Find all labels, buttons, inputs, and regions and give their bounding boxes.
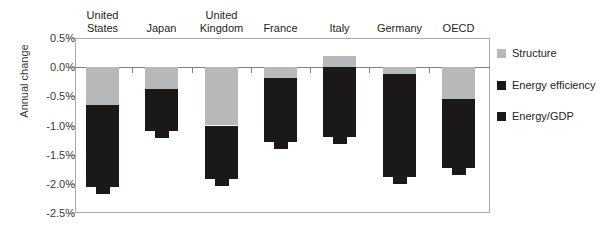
y-axis-tick-label: 0.5% [5,32,75,44]
bar-group[interactable] [264,0,297,229]
x-axis-category-label: UnitedKingdom [192,9,251,34]
y-axis-tick-label: -1.0% [5,120,75,132]
bar-marker-energy-gdp[interactable] [155,131,169,138]
y-axis-tick-mark [68,67,75,68]
y-axis-tick-label: -2.0% [5,178,75,190]
x-axis-category-label: UnitedStates [73,9,132,34]
bar-group[interactable] [383,0,416,229]
bar-segment-energy-efficiency[interactable] [383,74,416,177]
y-axis-tick-mark [68,126,75,127]
chart-figure: Annual change 0.5%0.0%-0.5%-1.0%-1.5%-2.… [0,0,604,229]
y-axis-tick-label: 0.0% [5,61,75,73]
x-axis-tick-mark [192,67,193,73]
bar-segment-energy-efficiency[interactable] [264,78,297,142]
bar-segment-structure[interactable] [323,56,356,67]
legend-swatch-icon [497,49,506,58]
y-axis-tick-label: -1.5% [5,149,75,161]
y-axis-tick-label: -0.5% [5,90,75,102]
bar-group[interactable] [145,0,178,229]
bar-group[interactable] [442,0,475,229]
bar-group[interactable] [323,0,356,229]
y-axis-tick-mark [68,184,75,185]
y-axis-ticks: 0.5%0.0%-0.5%-1.0%-1.5%-2.0%-2.5% [0,0,75,229]
bar-segment-energy-efficiency[interactable] [205,126,238,180]
x-axis-tick-mark [251,67,252,73]
bar-segment-structure[interactable] [442,67,475,99]
y-axis-tick-mark [68,155,75,156]
y-axis-tick-mark [68,96,75,97]
bar-segment-energy-efficiency[interactable] [323,67,356,137]
legend-label: Energy/GDP [512,110,574,122]
x-axis-tick-mark [369,67,370,73]
bar-marker-energy-gdp[interactable] [96,187,110,194]
bar-marker-energy-gdp[interactable] [452,168,466,175]
bar-segment-energy-efficiency[interactable] [145,89,178,131]
bar-marker-energy-gdp[interactable] [274,142,288,149]
x-axis-tick-mark [132,67,133,73]
legend-item[interactable]: Energy/GDP [497,110,574,122]
x-axis-tick-mark [429,67,430,73]
y-axis-tick-label: -2.5% [5,207,75,219]
x-axis-category-label: Germany [370,22,429,35]
bar-marker-energy-gdp[interactable] [215,179,229,186]
bar-segment-structure[interactable] [264,67,297,78]
bar-segment-structure[interactable] [145,67,178,89]
bar-segment-structure[interactable] [205,67,238,125]
x-axis-category-label: Japan [132,22,191,35]
legend-item[interactable]: Energy efficiency [497,79,596,91]
x-axis-category-label: France [251,22,310,35]
bar-group[interactable] [86,0,119,229]
y-axis-tick-mark [68,213,75,214]
legend-swatch-icon [497,112,506,121]
bar-marker-energy-gdp[interactable] [333,137,347,144]
legend-label: Structure [512,47,557,59]
x-axis-category-label: Italy [310,22,369,35]
bar-segment-structure[interactable] [86,67,119,105]
bar-segment-energy-efficiency[interactable] [442,99,475,168]
bar-group[interactable] [205,0,238,229]
legend-item[interactable]: Structure [497,47,557,59]
y-axis-tick-mark [68,38,75,39]
legend-swatch-icon [497,81,506,90]
x-axis-tick-mark [310,67,311,73]
legend-label: Energy efficiency [512,79,596,91]
bar-segment-structure[interactable] [383,67,416,74]
bar-marker-energy-gdp[interactable] [393,177,407,184]
bar-segment-energy-efficiency[interactable] [86,105,119,187]
x-axis-category-label: OECD [429,22,488,35]
